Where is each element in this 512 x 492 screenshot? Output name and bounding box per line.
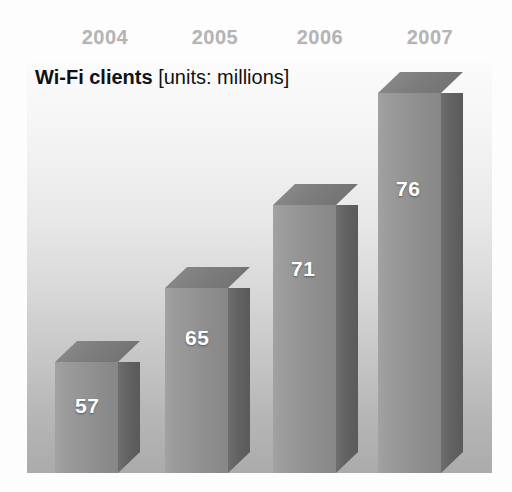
bar-2007-top-face <box>378 72 463 93</box>
bar-2007-side-face <box>441 93 463 473</box>
bar-2004-value-label: 57 <box>75 394 99 418</box>
bar-2004-top-face <box>55 341 140 362</box>
x-axis-tick-2006: 2006 <box>284 26 356 49</box>
x-axis-tick-2005: 2005 <box>179 26 251 49</box>
bar-2007-front-face <box>378 93 441 473</box>
bar-2006-top-face <box>273 184 358 205</box>
bar-2005-top-face <box>165 267 250 288</box>
bar-2006-front-face <box>273 205 336 473</box>
bar-2004: 57 <box>55 362 118 473</box>
bar-2007: 76 <box>378 93 441 473</box>
x-axis-tick-2007: 2007 <box>394 26 466 49</box>
plot-area: 57 65 71 76 <box>27 62 492 473</box>
bar-2006-value-label: 71 <box>291 257 315 281</box>
bar-2005: 65 <box>165 288 228 473</box>
chart-figure: 2004 2005 2006 2007 57 65 71 <box>0 0 512 492</box>
bar-2005-front-face <box>165 288 228 473</box>
bar-2006-side-face <box>336 205 358 473</box>
chart-title: Wi-Fi clients [units: millions] <box>35 66 289 89</box>
chart-title-units: [units: millions] <box>158 66 289 88</box>
x-axis-labels: 2004 2005 2006 2007 <box>0 26 512 58</box>
x-axis-tick-2004: 2004 <box>69 26 141 49</box>
bar-2007-value-label: 76 <box>396 177 420 201</box>
bar-2006: 71 <box>273 205 336 473</box>
bar-2005-side-face <box>228 288 250 473</box>
chart-title-main: Wi-Fi clients <box>35 66 153 88</box>
bar-2004-side-face <box>118 362 140 473</box>
bar-2005-value-label: 65 <box>185 326 209 350</box>
